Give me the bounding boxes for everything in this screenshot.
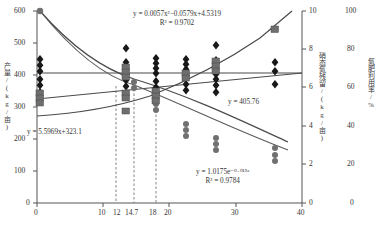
- data-point: [36, 100, 44, 106]
- ytick-r2-80: 80: [347, 44, 355, 53]
- data-point: [153, 69, 160, 77]
- data-point: [212, 68, 220, 74]
- xtick-18: 18: [149, 208, 157, 217]
- ytick-r1-6: 6: [309, 82, 313, 91]
- y-axis-title-right-nitrate: 硝态氮残留/(kg/亩): [318, 52, 325, 142]
- xtick-0: 0: [34, 208, 38, 217]
- ytick-r1-8: 8: [309, 44, 313, 53]
- annotation-exponential-line2: R² = 0.9784: [196, 177, 249, 186]
- data-point: [131, 85, 137, 91]
- data-point: [272, 67, 279, 75]
- data-point: [131, 79, 137, 85]
- data-point: [213, 147, 219, 153]
- ytick-r2-0: 0: [350, 198, 354, 207]
- ytick-r1-10: 10: [309, 6, 317, 15]
- exponential-curve: [40, 11, 288, 142]
- xtick-40: 40: [297, 208, 305, 217]
- ytick-r1-4: 4: [309, 121, 313, 130]
- data-point: [272, 152, 278, 158]
- xtick-10: 10: [98, 208, 106, 217]
- ytick-r2-60: 60: [347, 82, 355, 91]
- ytick-r1-0: 0: [309, 198, 313, 207]
- data-point: [153, 107, 159, 113]
- data-point: [183, 86, 190, 94]
- data-point: [183, 133, 189, 139]
- ytick-r1-2: 2: [309, 159, 313, 168]
- annotation-constant-line1: y = 405.76: [228, 98, 259, 107]
- data-point: [213, 41, 220, 49]
- data-point: [272, 80, 279, 88]
- data-point: [182, 75, 190, 81]
- annotation-exponential-equation: y = 1.0175e⁻⁰·⁰¹⁵ˣ R² = 0.9784: [196, 168, 249, 186]
- annotation-quadratic-line2: R² = 0.9702: [133, 19, 221, 28]
- ytick-r2-100: 100: [345, 6, 356, 15]
- ytick-left-600: 600: [14, 6, 25, 15]
- annotation-linear-equation: y = 5.5969x+323.1: [27, 128, 82, 137]
- data-point: [272, 58, 279, 66]
- y-axis-title-left: 产量/(kg/亩): [3, 62, 10, 131]
- data-point: [183, 127, 189, 133]
- chart-figure: 600 500 400 300 200 100 0 10 8 6 4 2 0 1…: [0, 0, 383, 235]
- data-point: [272, 158, 278, 164]
- y-axis-title-right-efficiency: 氮肥利用率/%: [367, 58, 374, 109]
- data-point: [152, 98, 160, 104]
- ytick-left-500: 500: [14, 38, 25, 47]
- ytick-r2-20: 20: [347, 159, 355, 168]
- data-point: [271, 26, 279, 33]
- axis-left: [33, 11, 37, 203]
- data-point: [123, 44, 130, 52]
- annotation-constant-equation: y = 405.76: [228, 98, 259, 107]
- ytick-left-0: 0: [26, 198, 30, 207]
- annotation-quadratic-equation: y = 0.0057x²−0.0579x+4.5319 R² = 0.9702: [133, 10, 221, 28]
- data-point: [213, 135, 219, 141]
- xtick-12: 12: [113, 208, 121, 217]
- xtick-20: 20: [164, 208, 172, 217]
- ytick-r2-40: 40: [347, 121, 355, 130]
- data-point: [122, 108, 130, 114]
- axis-right-nitrate: [302, 11, 306, 203]
- ytick-left-300: 300: [14, 102, 25, 111]
- xtick-30: 30: [231, 208, 239, 217]
- xtick-14-7: 14.7: [125, 208, 138, 217]
- data-point: [37, 67, 44, 75]
- ytick-left-200: 200: [14, 134, 25, 143]
- annotation-linear-line1: y = 5.5969x+323.1: [27, 128, 82, 137]
- annotation-exponential-line1: y = 1.0175e⁻⁰·⁰¹⁵ˣ: [196, 168, 249, 177]
- axis-bottom: [37, 203, 302, 207]
- data-point: [122, 74, 130, 80]
- ytick-left-400: 400: [14, 70, 25, 79]
- linear-curve: [37, 73, 302, 99]
- data-point: [183, 121, 189, 127]
- data-point: [122, 95, 130, 101]
- data-point: [213, 88, 220, 96]
- data-point: [37, 8, 43, 14]
- annotation-quadratic-line1: y = 0.0057x²−0.0579x+4.5319: [133, 10, 221, 19]
- data-point: [272, 145, 278, 151]
- ytick-left-100: 100: [14, 166, 25, 175]
- data-point: [213, 141, 219, 147]
